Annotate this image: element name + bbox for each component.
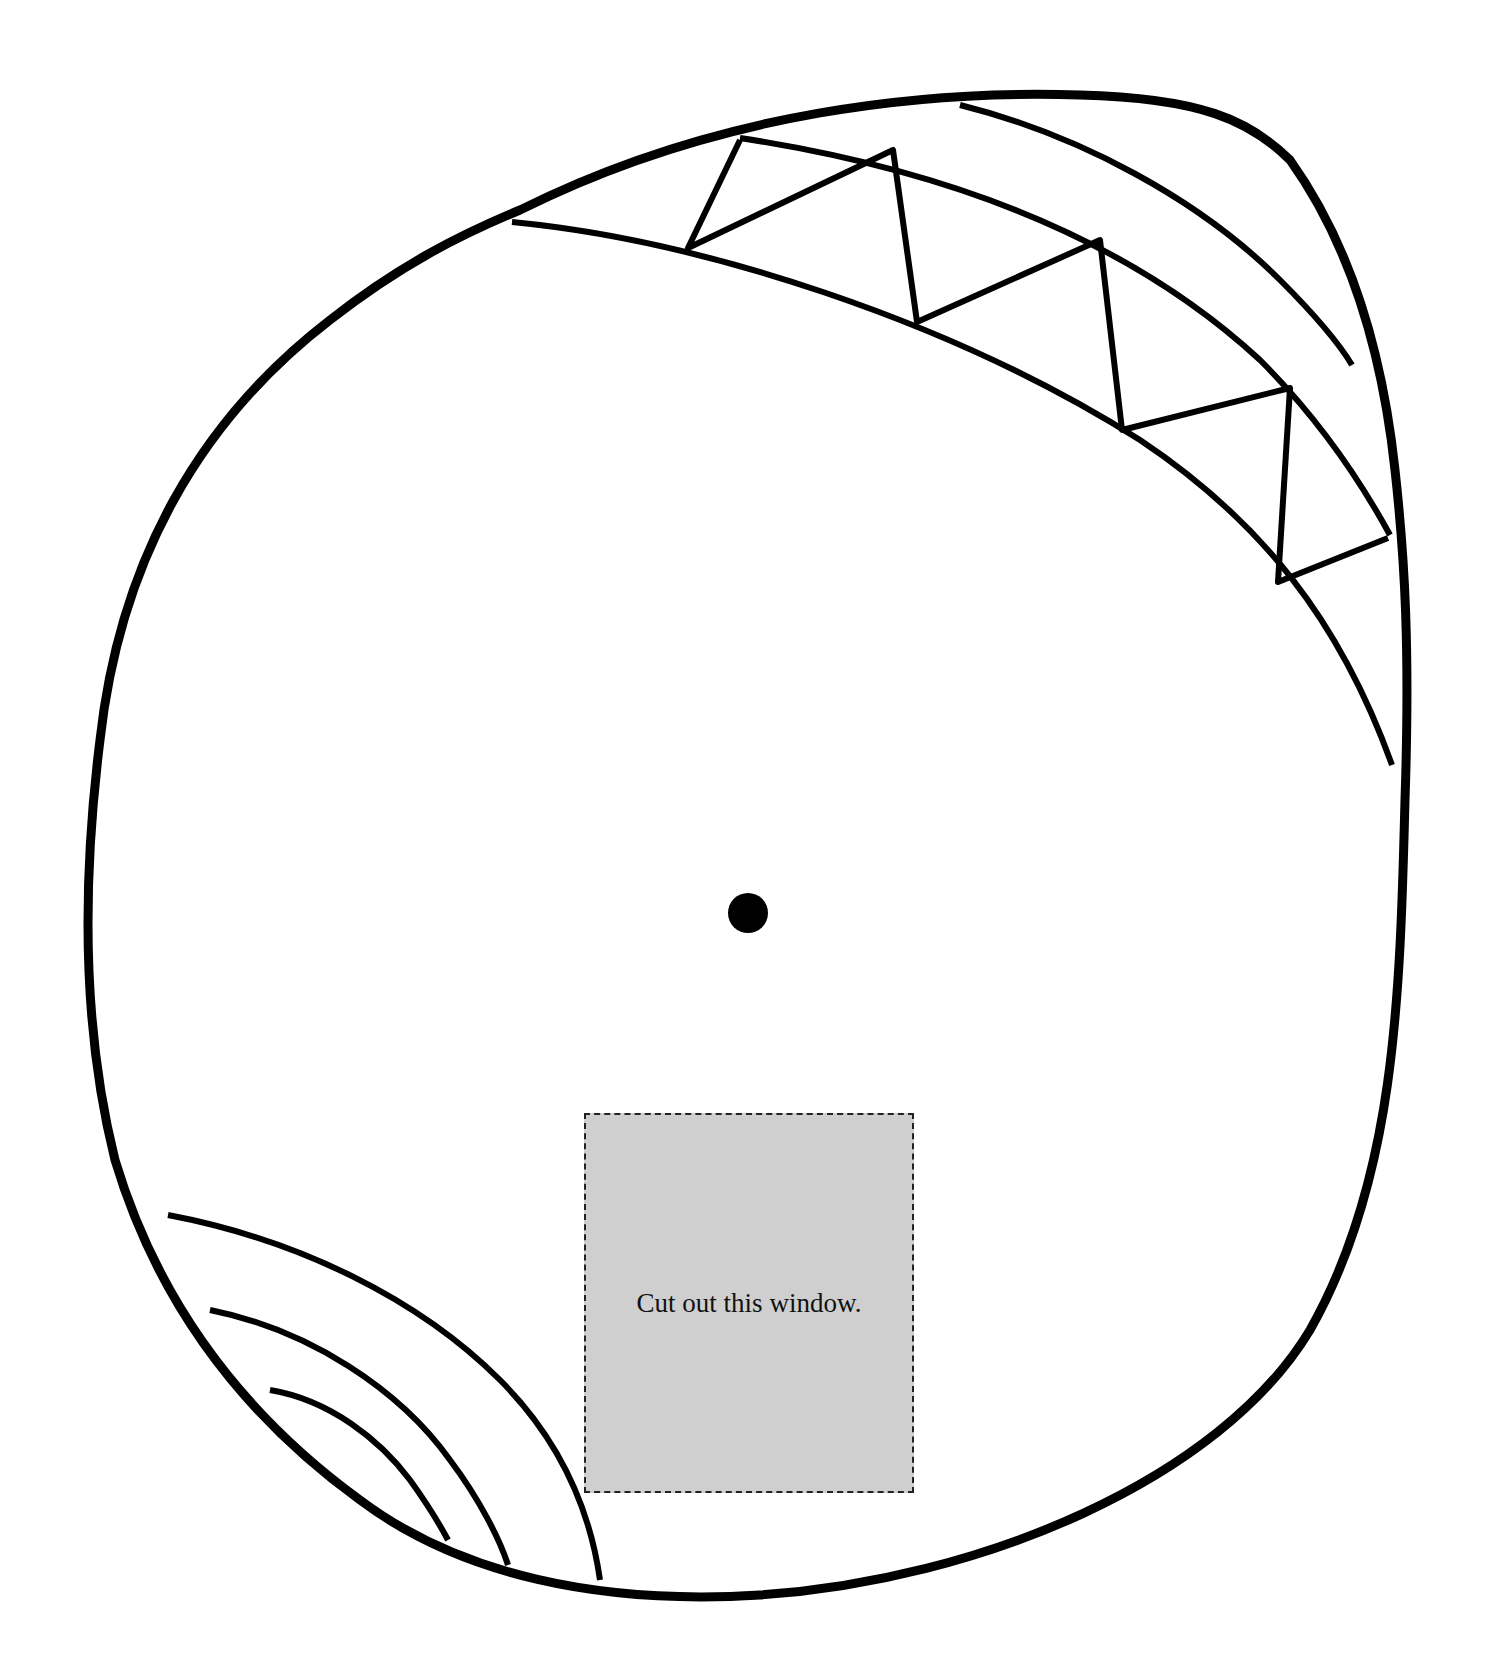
band-middle-curve	[740, 138, 1390, 535]
center-pivot-dot	[728, 893, 768, 933]
cut-out-window: Cut out this window.	[584, 1113, 914, 1493]
triangle-lattice	[688, 140, 1388, 582]
wheel-template-diagram: Cut out this window.	[0, 0, 1485, 1678]
bottom-left-arc-inner	[270, 1390, 448, 1540]
band-outer-curve	[960, 105, 1352, 365]
bottom-left-arc-outer	[168, 1215, 600, 1580]
cut-window-label: Cut out this window.	[637, 1288, 862, 1319]
